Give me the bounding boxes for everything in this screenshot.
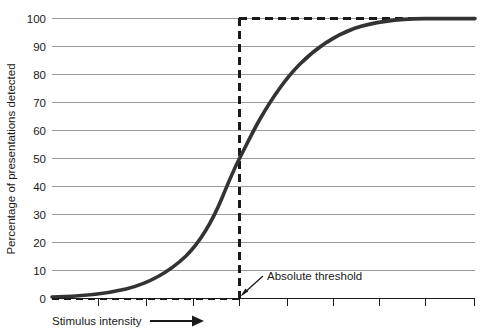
- y-ticklabel-10: 10: [33, 265, 46, 277]
- y-ticklabel-20: 20: [33, 237, 46, 249]
- y-ticklabel-70: 70: [33, 97, 46, 109]
- chart-background: [0, 0, 489, 332]
- chart-canvas: 100 90 80 70 60 50 40 30 20 10 0 Percent…: [0, 0, 489, 332]
- x-axis-title: Stimulus intensity: [52, 315, 142, 327]
- y-ticklabel-90: 90: [33, 41, 46, 53]
- y-ticklabel-100: 100: [27, 13, 46, 25]
- y-ticklabel-80: 80: [33, 69, 46, 81]
- y-ticklabel-30: 30: [33, 209, 46, 221]
- y-ticklabel-40: 40: [33, 181, 46, 193]
- psychometric-function-chart: 100 90 80 70 60 50 40 30 20 10 0 Percent…: [0, 0, 489, 332]
- y-ticklabel-0: 0: [40, 293, 46, 305]
- y-axis-title: Percentage of presentations detected: [5, 63, 17, 254]
- y-ticklabel-60: 60: [33, 125, 46, 137]
- absolute-threshold-label: Absolute threshold: [267, 270, 362, 282]
- y-ticklabel-50: 50: [33, 153, 46, 165]
